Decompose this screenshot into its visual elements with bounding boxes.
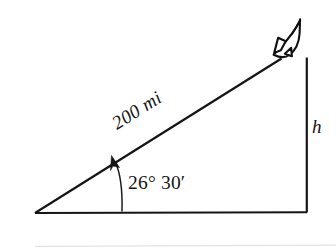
triangle-diagram-svg: 200 mi 26° 30′ h <box>0 0 336 251</box>
triangle-base-line <box>35 212 307 213</box>
angle-label: 26° 30′ <box>128 172 185 193</box>
height-label: h <box>312 116 322 137</box>
figure-container: 200 mi 26° 30′ h <box>0 0 336 251</box>
